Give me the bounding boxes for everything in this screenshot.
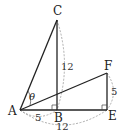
label-point-e: E [108,109,117,123]
label-point-a: A [7,104,17,118]
label-length-ef: 5 [111,86,117,97]
label-theta: θ [29,91,35,102]
right-angle-mark-b [52,105,57,110]
label-length-ab: 5 [35,112,41,123]
right-angle-mark-e [102,105,107,110]
label-length-ae: 12 [56,121,69,132]
label-point-c: C [53,4,62,18]
label-length-bc: 12 [61,61,74,72]
label-point-f: F [104,59,112,73]
geometry-diagram: C A B E F θ 12 5 12 5 [0,0,123,139]
